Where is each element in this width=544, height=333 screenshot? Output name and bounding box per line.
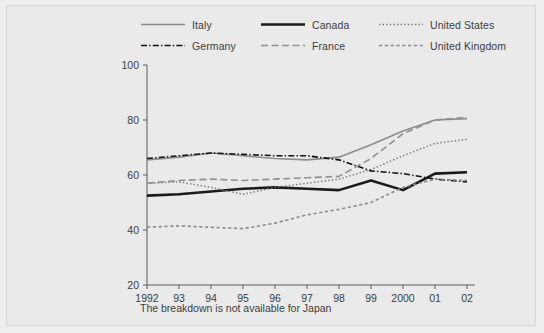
series-line-united-kingdom bbox=[147, 179, 467, 229]
y-axis-tick-label: 40 bbox=[127, 224, 139, 236]
y-axis-tick-label: 60 bbox=[127, 169, 139, 181]
x-axis-tick-label: 99 bbox=[365, 292, 377, 304]
series-line-united-states bbox=[147, 139, 467, 194]
x-axis-tick-label: 01 bbox=[429, 292, 441, 304]
x-axis-tick-label: 98 bbox=[333, 292, 345, 304]
y-axis-tick-label: 80 bbox=[127, 114, 139, 126]
chart-footnote: The breakdown is not available for Japan bbox=[140, 302, 331, 314]
x-axis-tick-label: 02 bbox=[461, 292, 473, 304]
x-axis-tick-label: 2000 bbox=[391, 292, 415, 304]
series-line-france bbox=[147, 117, 467, 183]
y-axis-tick-label: 20 bbox=[127, 279, 139, 291]
chart-figure: Italy Canada United States Germany Franc… bbox=[6, 5, 536, 326]
chart-plot-area: 2040608010019929394959697989920000102 bbox=[7, 6, 537, 327]
y-axis-tick-label: 100 bbox=[121, 59, 139, 71]
